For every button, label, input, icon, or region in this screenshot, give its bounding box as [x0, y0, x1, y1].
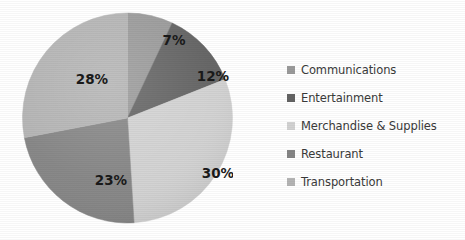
legend-item-label: Communications [301, 63, 396, 77]
legend-item[interactable]: Transportation [287, 168, 459, 196]
legend-color-swatch-icon [287, 150, 295, 158]
legend-color-swatch-icon [287, 178, 295, 186]
pie-slice-value-label: 28% [76, 71, 109, 87]
pie-slice-value-label: 23% [95, 172, 128, 188]
legend-item[interactable]: Merchandise & Supplies [287, 112, 459, 140]
legend-item[interactable]: Communications [287, 56, 459, 84]
pie-slice-value-label: 12% [197, 68, 230, 84]
pie-slice-value-label: 7% [163, 32, 186, 48]
chart-legend: CommunicationsEntertainmentMerchandise &… [287, 56, 459, 196]
legend-item-label: Restaurant [301, 147, 363, 161]
legend-color-swatch-icon [287, 94, 295, 102]
legend-item[interactable]: Restaurant [287, 140, 459, 168]
legend-color-swatch-icon [287, 66, 295, 74]
legend-item[interactable]: Entertainment [287, 84, 459, 112]
legend-item-label: Transportation [301, 175, 383, 189]
pie-shading-overlay [23, 13, 233, 223]
pie-chart-figure: 7%12%30%23%28% CommunicationsEntertainme… [0, 0, 465, 240]
pie-plot-area: 7%12%30%23%28% [22, 9, 233, 229]
legend-item-label: Entertainment [301, 91, 383, 105]
pie-slice-value-label: 30% [202, 165, 233, 181]
legend-color-swatch-icon [287, 122, 295, 130]
legend-item-label: Merchandise & Supplies [301, 119, 437, 133]
pie-svg: 7%12%30%23%28% [22, 9, 233, 229]
